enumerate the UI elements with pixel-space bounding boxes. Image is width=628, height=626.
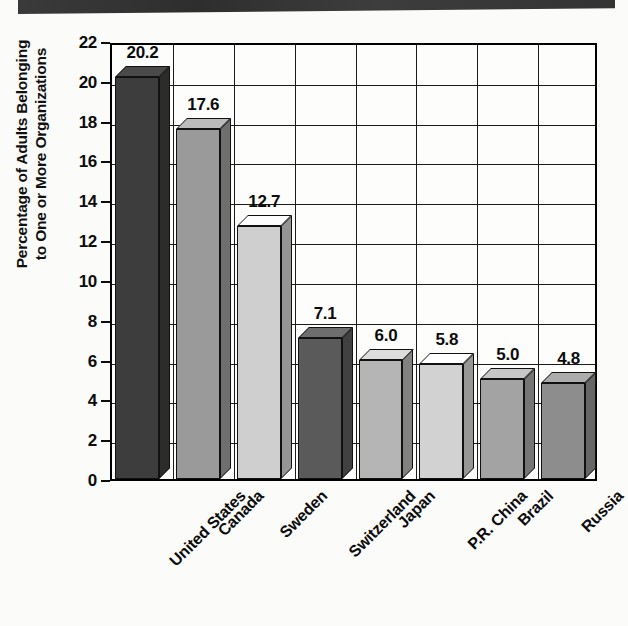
y-axis-title: Percentage of Adults Belonging to One or… — [8, 4, 56, 304]
bar: 5.8 — [419, 353, 474, 479]
bar-value-label: 6.0 — [375, 326, 398, 346]
y-tick-label: 18 — [79, 113, 97, 133]
x-axis-labels: United StatesCanadaSwedenSwitzerlandJapa… — [110, 487, 597, 622]
gridline-vertical — [416, 45, 417, 479]
y-tick-label: 22 — [79, 33, 97, 53]
gridline-vertical — [295, 45, 296, 479]
y-tick-label: 16 — [79, 152, 97, 172]
y-tick-label: 12 — [79, 232, 97, 252]
bar-chart: Percentage of Adults Belonging to One or… — [0, 0, 628, 626]
y-axis-ticks: 0246810121416182022 — [62, 43, 110, 481]
bar: 6.0 — [359, 349, 414, 479]
bar: 4.8 — [541, 372, 596, 479]
bar-value-label: 4.8 — [557, 349, 580, 369]
gridline-vertical — [234, 45, 235, 479]
x-tick-label: Russia — [578, 487, 627, 536]
bar-side-face — [159, 66, 170, 479]
bar-front-face — [419, 364, 463, 479]
bar-front-face — [115, 77, 159, 479]
bar: 17.6 — [176, 118, 231, 479]
bar-value-label: 5.8 — [435, 330, 458, 350]
bar: 20.2 — [115, 66, 170, 479]
bar-side-face — [342, 327, 353, 479]
bar-front-face — [298, 338, 342, 479]
gridline-vertical — [173, 45, 174, 479]
bar-side-face — [524, 368, 535, 479]
gridline-vertical — [477, 45, 478, 479]
y-tick-mark — [101, 440, 110, 442]
bar-front-face — [480, 379, 524, 479]
bar: 12.7 — [237, 215, 292, 479]
y-tick-label: 6 — [88, 352, 97, 372]
y-tick-mark — [101, 201, 110, 203]
y-tick-mark — [101, 122, 110, 124]
bar-side-face — [220, 118, 231, 479]
y-tick-mark — [101, 361, 110, 363]
y-tick-label: 8 — [88, 312, 97, 332]
y-tick-label: 2 — [88, 431, 97, 451]
bar-value-label: 5.0 — [496, 345, 519, 365]
bar: 7.1 — [298, 327, 353, 479]
bar-side-face — [281, 215, 292, 479]
y-tick-label: 0 — [88, 471, 97, 491]
y-tick-mark — [101, 480, 110, 482]
bar-front-face — [541, 383, 585, 479]
y-tick-mark — [101, 400, 110, 402]
bar-value-label: 7.1 — [314, 304, 337, 324]
y-tick-label: 20 — [79, 73, 97, 93]
y-tick-label: 14 — [79, 192, 97, 212]
bar-front-face — [176, 129, 220, 479]
y-tick-label: 4 — [88, 391, 97, 411]
bar-side-face — [402, 349, 413, 479]
y-tick-mark — [101, 161, 110, 163]
bar-side-face — [463, 353, 474, 479]
y-axis-title-text: Percentage of Adults Belonging to One or… — [13, 40, 51, 269]
y-tick-mark — [101, 241, 110, 243]
plot-area: 20.217.612.77.16.05.85.04.8 — [110, 43, 597, 481]
bar-side-face — [585, 372, 596, 479]
gridline-horizontal — [112, 85, 595, 86]
bar-front-face — [237, 226, 281, 479]
y-tick-mark — [101, 281, 110, 283]
x-tick-label: Sweden — [276, 487, 331, 542]
y-tick-mark — [101, 42, 110, 44]
y-tick-label: 10 — [79, 272, 97, 292]
bar: 5.0 — [480, 368, 535, 479]
y-tick-mark — [101, 321, 110, 323]
gridline-vertical — [538, 45, 539, 479]
bar-front-face — [359, 360, 403, 479]
gridline-vertical — [356, 45, 357, 479]
bar-value-label: 12.7 — [248, 192, 280, 212]
bar-value-label: 17.6 — [187, 95, 219, 115]
bar-value-label: 20.2 — [126, 43, 158, 63]
y-tick-mark — [101, 82, 110, 84]
